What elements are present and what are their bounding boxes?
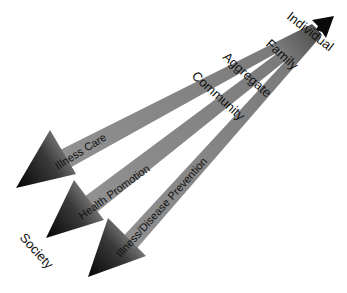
label-health-promotion: Health Promotion: [76, 162, 152, 222]
nursing-focus-diagram: Illness Care Health Promotion Illness/Di…: [0, 0, 347, 293]
